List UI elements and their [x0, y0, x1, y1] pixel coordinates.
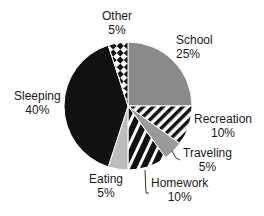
- traveling-leader-line: [172, 151, 180, 160]
- label-other-pct: 5%: [102, 23, 132, 37]
- label-sleeping-pct: 40%: [14, 103, 61, 117]
- label-other: Other 5%: [102, 9, 132, 37]
- label-sleeping: Sleeping 40%: [14, 89, 61, 117]
- label-traveling-pct: 5%: [183, 160, 232, 174]
- label-homework: Homework 10%: [151, 176, 208, 204]
- label-traveling-name: Traveling: [183, 146, 232, 160]
- label-sleeping-name: Sleeping: [14, 89, 61, 103]
- label-recreation: Recreation 10%: [194, 112, 252, 140]
- label-eating-name: Eating: [89, 172, 123, 186]
- label-recreation-name: Recreation: [194, 112, 252, 126]
- label-other-name: Other: [102, 9, 132, 23]
- pie-slices: [64, 42, 192, 170]
- label-eating: Eating 5%: [89, 172, 123, 200]
- label-school: School 25%: [176, 33, 213, 61]
- label-school-name: School: [176, 33, 213, 47]
- label-eating-pct: 5%: [89, 186, 123, 200]
- label-homework-pct: 10%: [151, 190, 208, 204]
- label-homework-name: Homework: [151, 176, 208, 190]
- label-recreation-pct: 10%: [194, 126, 252, 140]
- homework-leader-line: [145, 170, 149, 193]
- label-school-pct: 25%: [176, 47, 213, 61]
- label-traveling: Traveling 5%: [183, 146, 232, 174]
